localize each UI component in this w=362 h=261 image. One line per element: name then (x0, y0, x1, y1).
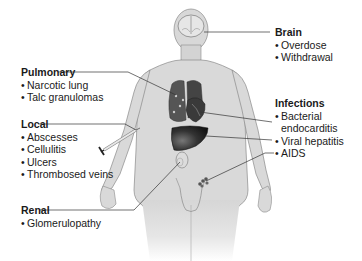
label-title-local: Local (21, 118, 113, 131)
label-title-brain: Brain (275, 26, 333, 39)
kidney-icon (176, 152, 188, 168)
label-title-infections: Infections (275, 97, 344, 110)
label-item: •Overdose (275, 39, 333, 52)
label-item: •Thrombosed veins (21, 168, 113, 181)
label-group-infections: Infections •Bacterial endocarditis •Vira… (275, 97, 344, 160)
label-item: •AIDS (275, 147, 344, 160)
diagram-canvas: Brain •Overdose •Withdrawal Pulmonary •N… (0, 0, 362, 261)
label-title-renal: Renal (21, 204, 101, 217)
label-group-local: Local •Abscesses •Cellulitis •Ulcers •Th… (21, 118, 113, 181)
label-title-pulmonary: Pulmonary (21, 66, 103, 79)
brain-icon (178, 15, 204, 37)
label-item: •Ulcers (21, 156, 113, 169)
label-item-continuation: endocarditis (275, 122, 344, 135)
label-group-brain: Brain •Overdose •Withdrawal (275, 26, 333, 64)
label-item: •Abscesses (21, 131, 113, 144)
label-item: •Viral hepatitis (275, 135, 344, 148)
label-group-renal: Renal •Glomerulopathy (21, 204, 101, 229)
label-item: •Talc granulomas (21, 91, 103, 104)
label-item: •Bacterial (275, 110, 344, 123)
label-item: •Cellulitis (21, 143, 113, 156)
label-group-pulmonary: Pulmonary •Narcotic lung •Talc granuloma… (21, 66, 103, 104)
label-item: •Withdrawal (275, 51, 333, 64)
label-item: •Glomerulopathy (21, 217, 101, 230)
label-item: •Narcotic lung (21, 79, 103, 92)
